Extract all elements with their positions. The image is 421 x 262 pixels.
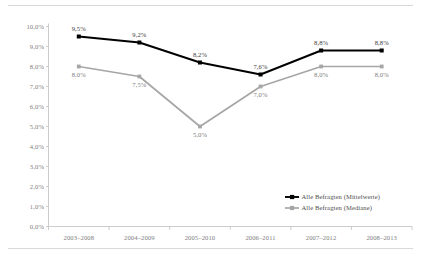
x-axis: 2003–20082004–20092005–20102006–20112007… [49,227,413,241]
y-axis-tick-label: 10,0% [26,23,44,30]
data-point-label: 8,0% [375,71,390,78]
y-axis-tick-label: 1,0% [30,203,45,210]
data-labels-layer: 9,5%9,2%8,2%7,6%8,8%8,8%8,0%7,5%5,0%7,0%… [72,25,389,138]
x-axis-tick-label: 2005–2010 [185,234,216,241]
data-point-marker [259,85,263,89]
legend-label: Alle Befragten (Mediane) [302,204,373,212]
chart-container: 0,0%1,0%2,0%3,0%4,0%5,0%6,0%7,0%8,0%9,0%… [0,0,421,262]
series-line-mittelwerte [79,37,382,75]
series-layer [77,35,384,129]
legend-swatch-marker [290,206,294,210]
y-axis-tick-label: 7,0% [30,83,45,90]
y-axis-tick-label: 0,0% [30,223,45,230]
data-point-marker [198,125,202,129]
data-point-label: 8,0% [314,71,329,78]
data-point-marker [137,41,141,45]
legend-swatch-marker [290,195,294,199]
x-axis-tick-label: 2003–2008 [64,234,95,241]
data-point-label: 8,0% [72,71,87,78]
data-point-marker [259,73,263,77]
chart-legend: Alle Befragten (Mittelwerte)Alle Befragt… [285,193,380,212]
data-point-marker [380,65,384,69]
data-point-marker [77,65,81,69]
data-point-label: 8,8% [314,39,329,46]
data-point-label: 8,2% [193,51,208,58]
y-axis-tick-label: 5,0% [30,123,45,130]
data-point-label: 7,6% [253,63,268,70]
data-point-marker [137,75,141,79]
y-axis-tick-label: 3,0% [30,163,45,170]
data-point-marker [319,49,323,53]
line-chart-svg: 0,0%1,0%2,0%3,0%4,0%5,0%6,0%7,0%8,0%9,0%… [0,0,421,262]
data-point-marker [77,35,81,39]
data-point-marker [319,65,323,69]
data-point-label: 5,0% [193,131,208,138]
y-axis-tick-label: 4,0% [30,143,45,150]
legend-label: Alle Befragten (Mittelwerte) [302,193,381,201]
data-point-label: 8,8% [375,39,390,46]
y-axis-tick-label: 8,0% [30,63,45,70]
y-axis-tick-label: 2,0% [30,183,45,190]
data-point-label: 9,2% [132,31,147,38]
y-axis-tick-label: 6,0% [30,103,45,110]
data-point-label: 7,0% [253,91,268,98]
data-point-label: 9,5% [72,25,87,32]
y-axis-tick-label: 9,0% [30,43,45,50]
data-point-marker [198,61,202,65]
x-axis-tick-label: 2006–2011 [245,234,275,241]
y-axis: 0,0%1,0%2,0%3,0%4,0%5,0%6,0%7,0%8,0%9,0%… [26,23,48,230]
data-point-marker [380,49,384,53]
series-line-mediane [79,67,382,127]
x-axis-tick-label: 2007–2012 [306,234,337,241]
x-axis-tick-label: 2008–2013 [366,234,397,241]
x-axis-tick-label: 2004–2009 [124,234,155,241]
data-point-label: 7,5% [132,81,147,88]
